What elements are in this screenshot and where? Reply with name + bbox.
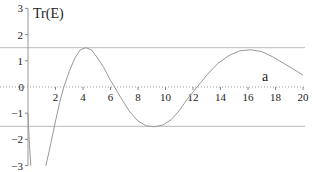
- x-tick-label: 8: [135, 91, 141, 103]
- x-axis-label: a: [262, 69, 269, 84]
- y-tick-label: −3: [11, 160, 23, 172]
- x-tick-label: 0: [19, 81, 25, 93]
- series-line-1: [46, 48, 303, 166]
- trace-plot: 24681012141618200−3−2−1123 Tr(E) a: [0, 0, 326, 172]
- x-tick-label: 6: [108, 91, 114, 103]
- y-tick-label: −1: [11, 107, 23, 119]
- x-tick-label: 2: [53, 91, 59, 103]
- y-tick-label: 3: [18, 2, 24, 14]
- y-tick-label: 2: [18, 29, 24, 41]
- x-tick-label: 10: [160, 91, 172, 103]
- x-tick-label: 18: [270, 91, 282, 103]
- x-tick-label: 4: [80, 91, 86, 103]
- y-tick-label: −2: [11, 133, 23, 145]
- x-tick-label: 16: [243, 91, 255, 103]
- y-axis-label: Tr(E): [33, 6, 64, 22]
- x-tick-label: 20: [298, 91, 310, 103]
- x-tick-label: 14: [215, 91, 227, 103]
- chart: 24681012141618200−3−2−1123 Tr(E) a: [0, 0, 326, 172]
- y-tick-label: 1: [18, 55, 24, 67]
